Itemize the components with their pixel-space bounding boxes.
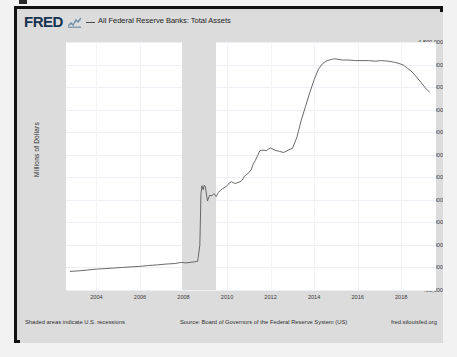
chart-footer: Shaded areas indicate U.S. recessions So… (20, 316, 443, 340)
x-tick-label: 2016 (351, 294, 363, 300)
fred-logo[interactable]: FRED (24, 14, 63, 30)
legend-series-label[interactable]: All Federal Reserve Banks: Total Assets (98, 16, 231, 25)
plot-container: Millions of Dollars 4,800,0004,400,0004,… (20, 34, 443, 314)
plot-area (66, 42, 436, 290)
x-tick-label: 2014 (308, 294, 320, 300)
x-tick-label: 2018 (395, 294, 407, 300)
x-tick-label: 2006 (134, 294, 146, 300)
legend-line-swatch (86, 22, 95, 23)
recession-note: Shaded areas indicate U.S. recessions (25, 319, 125, 325)
source-note: Source: Board of Governors of the Federa… (180, 319, 347, 325)
gridline (66, 290, 436, 291)
chart-image-frame: FRED All Federal Reserve Banks: Total As… (14, 6, 443, 343)
screenshot-root: FRED All Federal Reserve Banks: Total As… (0, 0, 457, 357)
top-marker (19, 0, 27, 4)
x-tick-label: 2010 (221, 294, 233, 300)
sparkline-icon (68, 17, 81, 28)
series-line-total-assets (66, 42, 436, 290)
fred-chart-canvas: FRED All Federal Reserve Banks: Total As… (20, 12, 443, 343)
x-axis-ticks: 20042006200820102012201420162018 (66, 294, 436, 304)
fred-site-link[interactable]: fred.stlouisfed.org (391, 319, 437, 325)
chart-header: FRED All Federal Reserve Banks: Total As… (20, 12, 443, 34)
x-tick-label: 2004 (90, 294, 102, 300)
x-tick-label: 2008 (177, 294, 189, 300)
y-axis-title: Millions of Dollars (33, 105, 40, 195)
x-tick-label: 2012 (264, 294, 276, 300)
